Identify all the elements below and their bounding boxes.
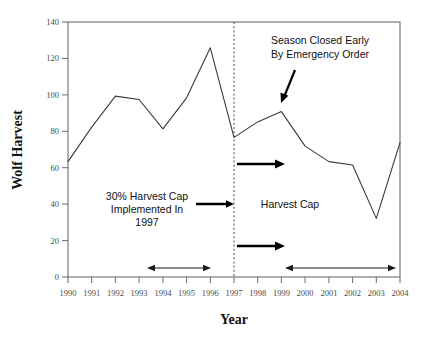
post-cap-bracket-left-head-icon	[285, 265, 293, 271]
harvest-cap-line2: Implemented In	[111, 203, 184, 215]
x-tick-label-1993: 1993	[131, 288, 148, 298]
pre-cap-bracket-left-head-icon	[147, 265, 155, 271]
y-tick-label-140: 140	[46, 17, 59, 27]
x-tick-label-1991: 1991	[83, 288, 100, 298]
x-tick-label-2001: 2001	[320, 288, 337, 298]
y-tick-label-60: 60	[51, 163, 60, 173]
season-closed-line1: Season Closed Early	[271, 34, 370, 46]
x-tick-label-2003: 2003	[368, 288, 385, 298]
post-cap-bracket-right-head-icon	[388, 265, 396, 271]
x-axis: 1990 1991 1992 1993 1994 1995 1996 1997 …	[60, 277, 410, 298]
wolf-harvest-line-chart: 0 20 40 60 80 100 120 140 1990	[0, 0, 422, 349]
x-axis-title: Year	[220, 312, 248, 327]
x-tick-label-1998: 1998	[249, 288, 266, 298]
y-tick-label-0: 0	[55, 272, 59, 282]
x-tick-label-2000: 2000	[297, 288, 314, 298]
x-tick-label-1992: 1992	[107, 288, 124, 298]
x-tick-label-1990: 1990	[60, 288, 77, 298]
x-tick-label-1997: 1997	[226, 288, 243, 298]
x-tick-label-1996: 1996	[202, 288, 219, 298]
y-axis-title: Wolf Harvest	[10, 110, 25, 190]
harvest-cap-line3: 1997	[135, 216, 159, 228]
chart-svg: 0 20 40 60 80 100 120 140 1990	[0, 0, 422, 349]
harvest-cap-line1: 30% Harvest Cap	[106, 190, 188, 202]
season-closed-line2: By Emergency Order	[271, 48, 370, 60]
y-tick-label-40: 40	[51, 199, 60, 209]
y-tick-label-120: 120	[46, 53, 59, 63]
pre-cap-bracket-right-head-icon	[203, 265, 211, 271]
cap-region-arrow-top	[237, 160, 285, 169]
harvest-cap-region-label: Harvest Cap	[261, 198, 320, 210]
cap-arrow-top-head-icon	[275, 160, 285, 169]
x-tick-label-1994: 1994	[154, 288, 172, 298]
harvest-cap-arrow-head-icon	[226, 200, 234, 208]
x-tick-label-1995: 1995	[178, 288, 195, 298]
y-tick-label-80: 80	[51, 126, 60, 136]
harvest-cap-annotation: 30% Harvest Cap Implemented In 1997	[106, 190, 234, 228]
x-tick-label-2004: 2004	[392, 288, 410, 298]
y-tick-label-100: 100	[46, 90, 59, 100]
season-closed-arrow-line	[284, 70, 295, 97]
cap-arrow-bottom-head-icon	[275, 242, 285, 251]
y-axis: 0 20 40 60 80 100 120 140	[46, 17, 68, 282]
y-tick-label-20: 20	[51, 236, 60, 246]
pre-cap-period-bracket	[147, 265, 211, 271]
post-cap-period-bracket	[285, 265, 396, 271]
x-tick-label-2002: 2002	[344, 288, 361, 298]
cap-region-arrow-bottom	[237, 242, 285, 251]
x-tick-label-1999: 1999	[273, 288, 290, 298]
season-closed-annotation: Season Closed Early By Emergency Order	[271, 34, 370, 103]
